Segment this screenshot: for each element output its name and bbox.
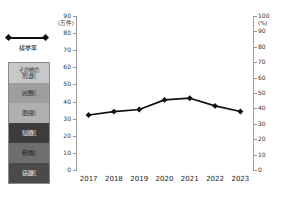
clearance-rate-marker-2022 xyxy=(212,103,218,109)
x-axis-label-2022: 2022 xyxy=(201,176,229,183)
x-axis-label-2023: 2023 xyxy=(226,176,254,183)
x-axis-label-2018: 2018 xyxy=(100,176,128,183)
clearance-rate-marker-2023 xyxy=(237,109,243,115)
x-axis-label-2021: 2021 xyxy=(176,176,204,183)
clearance-rate-marker-2019 xyxy=(136,107,142,113)
crime-statistics-chart: 検挙率 その他の刑法犯凶悪犯風俗犯知能犯粗暴犯窃盗犯 0102030405060… xyxy=(0,0,289,207)
x-axis-label-2019: 2019 xyxy=(125,176,153,183)
x-axis-label-2020: 2020 xyxy=(151,176,179,183)
clearance-rate-marker-2021 xyxy=(187,95,193,101)
clearance-rate-marker-2020 xyxy=(162,97,168,103)
clearance-rate-marker-2017 xyxy=(86,112,92,118)
clearance-rate-marker-2018 xyxy=(111,109,117,115)
x-axis-label-2017: 2017 xyxy=(75,176,103,183)
